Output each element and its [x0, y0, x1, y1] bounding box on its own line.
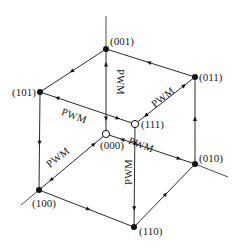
pwm-label: PWM: [149, 85, 177, 110]
edge-000-001: [104, 49, 108, 134]
switching-state-cube-diagram: PWMPWMPWMPWMPWMPWM (001)(101)(011)(111)(…: [0, 0, 240, 252]
vertex-011-filled: [192, 74, 198, 80]
arrowhead-icon: [176, 156, 181, 160]
vertex-110-filled: [131, 224, 137, 230]
arrowhead-icon: [132, 206, 136, 211]
vertex-label-101: (101): [12, 86, 36, 99]
y-axis-line: [195, 164, 228, 177]
vertex-label-010: (010): [199, 152, 223, 165]
pwm-label: PWM: [127, 135, 156, 154]
arrowhead-icon: [193, 117, 197, 122]
vertex-000-open: [102, 130, 109, 137]
arrowhead-icon: [55, 97, 60, 101]
arrowhead-icon: [70, 68, 75, 72]
vertex-label-111: (111): [141, 118, 164, 131]
vertex-labels-layer: (001)(101)(011)(111)(000)(010)(100)(110): [12, 35, 223, 238]
arrowhead-icon: [104, 62, 108, 67]
vertex-100-filled: [36, 187, 42, 193]
vertex-label-100: (100): [32, 197, 56, 210]
arrowhead-icon: [86, 207, 91, 211]
vertex-label-011: (011): [199, 71, 223, 84]
arrowhead-icon: [115, 116, 120, 120]
edge-111-101: [40, 92, 135, 124]
vertex-label-110: (110): [139, 225, 163, 238]
vertex-label-000: (000): [100, 139, 124, 152]
edge-101-100: [38, 92, 42, 190]
vertex-001-filled: [103, 46, 109, 52]
arrowhead-icon: [104, 116, 108, 121]
arrowhead-icon: [38, 141, 42, 146]
pwm-label: PWM: [123, 159, 134, 185]
pwm-label: PWM: [60, 106, 89, 125]
edge-001-101: [40, 49, 106, 92]
pwm-label: PWM: [115, 69, 126, 95]
arrowhead-icon: [147, 61, 152, 65]
vertex-010-filled: [192, 161, 198, 167]
vertex-101-filled: [37, 89, 43, 95]
edge-110-010: [134, 164, 195, 227]
edge-010-011: [193, 77, 197, 164]
vertex-111-open: [131, 120, 138, 127]
vertex-label-001: (001): [110, 35, 134, 48]
